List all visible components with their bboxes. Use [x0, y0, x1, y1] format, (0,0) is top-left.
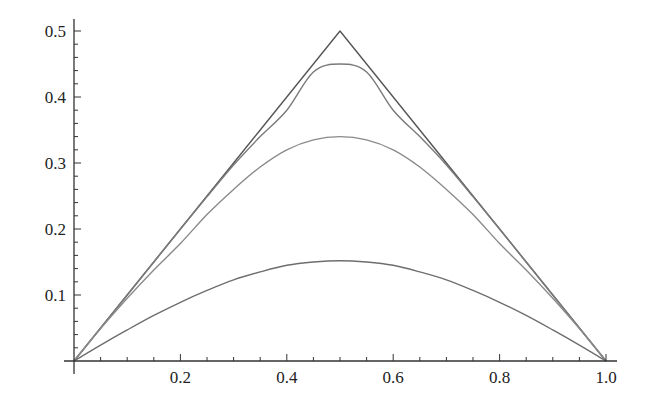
- series-line-curve-1-triangle: [74, 31, 606, 361]
- y-tick-label: 0.2: [45, 220, 66, 239]
- x-tick-label: 0.2: [170, 368, 191, 387]
- y-tick-label: 0.4: [45, 88, 67, 107]
- series-line-curve-4: [74, 261, 606, 361]
- x-tick-label: 1.0: [595, 368, 616, 387]
- y-tick-label: 0.3: [45, 154, 66, 173]
- series-layer: [74, 31, 606, 361]
- series-line-curve-3: [74, 137, 606, 361]
- y-tick-label: 0.1: [45, 286, 66, 305]
- y-axis-ticks: 0.10.20.30.40.5: [45, 22, 81, 348]
- y-tick-label: 0.5: [45, 22, 66, 41]
- x-tick-label: 0.6: [383, 368, 404, 387]
- x-tick-label: 0.4: [276, 368, 298, 387]
- series-line-curve-2: [74, 64, 606, 361]
- x-axis-ticks: 0.20.40.60.81.0: [101, 354, 617, 387]
- axes: 0.20.40.60.81.0 0.10.20.30.40.5: [45, 19, 617, 387]
- x-tick-label: 0.8: [489, 368, 510, 387]
- line-chart: 0.20.40.60.81.0 0.10.20.30.40.5: [0, 0, 645, 404]
